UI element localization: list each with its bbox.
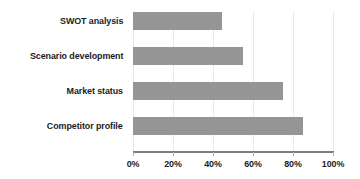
- x-axis-label-20: 20%: [164, 158, 182, 169]
- category-label-competitor-profile: Competitor profile: [47, 117, 123, 135]
- category-label-scenario-development: Scenario development: [30, 47, 123, 65]
- x-tick-80: [293, 152, 294, 156]
- category-label-swot-analysis: SWOT analysis: [60, 12, 123, 30]
- x-tick-0: [133, 152, 134, 156]
- x-axis-label-0: 0%: [127, 158, 140, 169]
- bar-chart: SWOT analysis Scenario development Marke…: [0, 0, 360, 179]
- plot-area: [133, 12, 333, 152]
- gridline-100: [333, 12, 334, 152]
- x-axis-line: [133, 151, 334, 153]
- x-tick-100: [333, 152, 334, 156]
- bar-swot-analysis: [133, 12, 222, 30]
- x-tick-40: [213, 152, 214, 156]
- bar-market-status: [133, 82, 283, 100]
- x-axis-label-100: 100%: [322, 158, 344, 169]
- bar-competitor-profile: [133, 117, 303, 135]
- bar-scenario-development: [133, 47, 243, 65]
- x-axis-label-40: 40%: [204, 158, 222, 169]
- x-axis-label-80: 80%: [284, 158, 302, 169]
- category-label-market-status: Market status: [67, 82, 123, 100]
- x-tick-60: [253, 152, 254, 156]
- category-axis-labels: SWOT analysis Scenario development Marke…: [0, 12, 128, 152]
- value-axis-labels: 0% 20% 40% 60% 80% 100%: [133, 158, 334, 174]
- x-tick-20: [173, 152, 174, 156]
- x-axis-label-60: 60%: [244, 158, 262, 169]
